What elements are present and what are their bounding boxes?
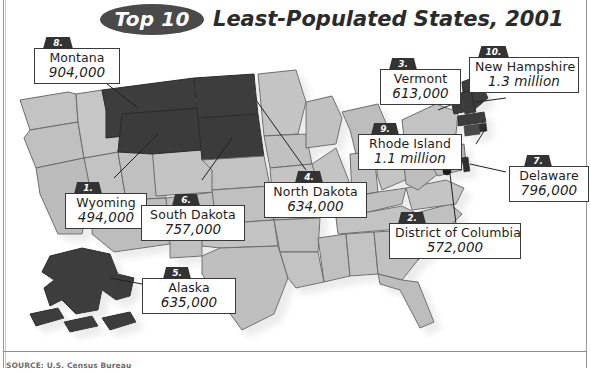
state-south-dakota-highlight (198, 114, 264, 160)
rank-tab-wyoming: 1. (74, 182, 102, 194)
callout-montana[interactable]: 8. Montana 904,000 (34, 48, 120, 84)
rank-tab-vermont: 3. (389, 58, 417, 70)
state-iowa (264, 134, 312, 168)
state-rhode-island-highlight (479, 123, 487, 132)
rank-tab-north-dakota: 4. (295, 171, 323, 183)
rank-tab-south-dakota: 6. (172, 194, 200, 206)
leader-line-delaware (470, 164, 506, 172)
callout-vermont[interactable]: 3. Vermont 613,000 (380, 69, 461, 105)
callout-alaska[interactable]: 5. Alaska 635,000 (142, 278, 236, 314)
frame-border-left (3, 0, 4, 368)
state-arkansas (274, 218, 320, 252)
state-florida (378, 274, 434, 328)
callout-delaware[interactable]: 7. Delaware 796,000 (509, 166, 589, 202)
callout-south-dakota[interactable]: 6. South Dakota 757,000 (141, 205, 245, 241)
state-population-south-dakota: 757,000 (147, 222, 239, 237)
state-population-wyoming: 494,000 (71, 210, 141, 225)
state-alaska-highlight (30, 248, 136, 332)
state-population-rhode-island: 1.1 million (364, 151, 456, 166)
state-minnesota (258, 70, 306, 136)
callout-rhode-island[interactable]: 9. Rhode Island 1.1 million (358, 134, 462, 170)
state-nebraska (202, 156, 270, 190)
rank-tab-rhode-island: 9. (371, 123, 399, 135)
rank-tab-montana: 8. (43, 37, 73, 49)
state-name-alaska: Alaska (148, 281, 230, 295)
page-title: Top 10 Least-Populated States, 2001 (100, 2, 564, 36)
state-population-alaska: 635,000 (148, 295, 230, 310)
infographic-canvas: Top 10 Least-Populated States, 2001 (0, 0, 591, 374)
state-wisconsin (306, 96, 342, 148)
top-ten-badge: Top 10 (100, 4, 204, 35)
state-name-south-dakota: South Dakota (147, 208, 239, 222)
top-ten-badge-label: Top 10 (114, 7, 189, 31)
state-population-dc: 572,000 (395, 240, 515, 255)
state-name-new-hampshire: New Hampshire (475, 60, 573, 74)
us-map: 8. Montana 904,000 1. Wyoming 494,000 6.… (6, 38, 586, 350)
rank-tab-alaska: 5. (163, 267, 191, 279)
title-text: Least-Populated States, 2001 (213, 7, 564, 31)
state-connecticut-dark (464, 124, 480, 136)
state-alabama (346, 232, 378, 276)
callout-north-dakota[interactable]: 4. North Dakota 634,000 (264, 182, 367, 218)
rank-tab-dc: 2. (398, 212, 426, 224)
state-population-new-hampshire: 1.3 million (475, 74, 573, 89)
state-north-dakota-highlight (194, 74, 258, 118)
state-population-vermont: 613,000 (386, 86, 455, 101)
state-name-montana: Montana (40, 51, 114, 65)
state-new-york (402, 104, 458, 138)
state-population-montana: 904,000 (40, 65, 114, 80)
rank-tab-new-hampshire: 10. (478, 46, 509, 58)
source-note: SOURCE: U.S. Census Bureau (6, 361, 131, 370)
callout-new-hampshire[interactable]: 10. New Hampshire 1.3 million (469, 57, 579, 93)
state-wyoming-highlight (118, 108, 202, 154)
frame-border-bottom (3, 351, 587, 352)
state-name-wyoming: Wyoming (71, 196, 141, 210)
state-name-north-dakota: North Dakota (270, 185, 361, 199)
state-population-delaware: 796,000 (515, 183, 583, 198)
callout-dc[interactable]: 2. District of Columbia 572,000 (389, 223, 521, 259)
rank-tab-delaware: 7. (524, 155, 552, 167)
state-name-delaware: Delaware (515, 169, 583, 183)
state-mississippi (318, 234, 350, 282)
state-delaware-highlight (462, 157, 470, 172)
state-name-rhode-island: Rhode Island (364, 137, 456, 151)
state-name-vermont: Vermont (386, 72, 455, 86)
state-name-dc: District of Columbia (395, 226, 515, 240)
state-population-north-dakota: 634,000 (270, 199, 361, 214)
callout-wyoming[interactable]: 1. Wyoming 494,000 (65, 193, 147, 229)
